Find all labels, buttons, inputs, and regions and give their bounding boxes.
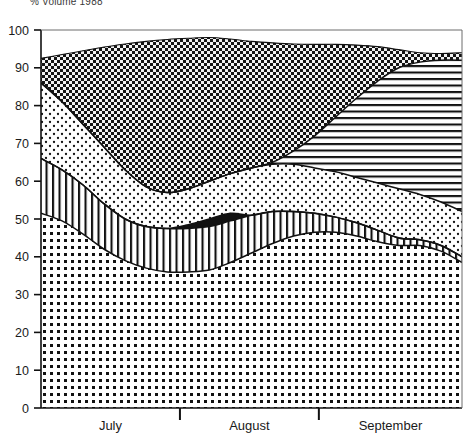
y-tick-label: 20 bbox=[15, 326, 29, 340]
x-axis-month-label: July bbox=[99, 418, 123, 433]
chart-container: % Volume 1988 bbox=[0, 0, 475, 443]
area-bands bbox=[41, 38, 462, 408]
y-tick-label: 50 bbox=[15, 213, 29, 227]
y-tick-label: 0 bbox=[22, 402, 29, 416]
y-tick-label: 10 bbox=[15, 364, 29, 378]
y-tick-label: 90 bbox=[15, 61, 29, 75]
y-tick-label: 60 bbox=[15, 175, 29, 189]
y-tick-label: 80 bbox=[15, 99, 29, 113]
x-axis-month-label: September bbox=[359, 418, 423, 433]
y-tick-label: 70 bbox=[15, 137, 29, 151]
chart-title: % Volume 1988 bbox=[30, 0, 103, 7]
y-tick-label: 100 bbox=[8, 24, 29, 38]
x-axis-ticks: JulyAugustSeptember bbox=[99, 408, 423, 433]
stacked-area-chart: 0102030405060708090100 JulyAugustSeptemb… bbox=[0, 0, 475, 443]
x-axis-month-label: August bbox=[229, 418, 270, 433]
y-tick-label: 30 bbox=[15, 288, 29, 302]
y-axis-ticks: 0102030405060708090100 bbox=[8, 24, 41, 416]
y-tick-label: 40 bbox=[15, 250, 29, 264]
